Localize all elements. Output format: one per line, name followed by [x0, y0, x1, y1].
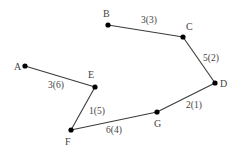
node-d [212, 80, 217, 85]
edge-weight-label: 3(3) [141, 15, 157, 26]
graph-diagram: 3(6)1(5)6(4)2(1)5(2)3(3)ABCDEFG [0, 0, 242, 148]
node-c [180, 34, 185, 39]
edge-weight-label: 1(5) [89, 106, 105, 117]
node-g [154, 109, 159, 114]
node-label-d: D [220, 78, 227, 89]
edge-weight-label: 6(4) [106, 125, 122, 136]
graph-canvas: 3(6)1(5)6(4)2(1)5(2)3(3)ABCDEFG [0, 0, 242, 148]
node-label-f: F [65, 136, 71, 147]
edge-weight-label: 5(2) [203, 53, 219, 64]
node-e [92, 84, 97, 89]
node-a [22, 63, 27, 68]
edge-weight-label: 2(1) [186, 100, 202, 111]
edge-c-b [108, 25, 183, 37]
node-label-e: E [88, 69, 94, 80]
node-label-b: B [103, 8, 110, 19]
node-b [105, 22, 110, 27]
node-label-g: G [154, 118, 161, 129]
node-label-a: A [14, 61, 22, 72]
node-label-c: C [186, 21, 193, 32]
node-f [68, 127, 73, 132]
edge-weight-label: 3(6) [48, 80, 64, 91]
